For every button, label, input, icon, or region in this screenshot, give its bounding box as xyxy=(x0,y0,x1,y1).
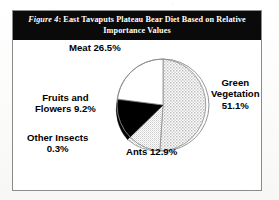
pie-chart xyxy=(116,58,210,152)
figure-caption-line-1: Figure 4: East Tavaputs Plateau Bear Die… xyxy=(28,15,246,26)
pie-label-green-vegetation-line-1: Green xyxy=(211,77,260,88)
pie-label-green-vegetation-line-2: Vegetation xyxy=(211,88,260,99)
figure-number-label: Figure 4 xyxy=(28,15,58,24)
pie-label-fruits-line-1: Fruits and xyxy=(35,92,96,103)
pie-slice-green-vegetation xyxy=(160,59,206,151)
pie-label-ants: Ants 12.9% xyxy=(126,146,177,157)
pie-label-other-insects: Other Insects 0.3% xyxy=(27,132,88,155)
pie-label-other-insects-line-1: Other Insects xyxy=(27,132,88,143)
figure-caption-text: : East Tavaputs Plateau Bear Diet Based … xyxy=(58,15,245,24)
pie-label-other-insects-line-2: 0.3% xyxy=(27,143,88,154)
pie-label-fruits-line-2: Flowers 9.2% xyxy=(35,103,96,114)
pie-label-meat: Meat 26.5% xyxy=(69,42,121,53)
pie-slice-meat xyxy=(117,59,163,105)
pie-label-fruits-and-flowers: Fruits and Flowers 9.2% xyxy=(35,92,96,115)
scanned-page: Figure 4: East Tavaputs Plateau Bear Die… xyxy=(0,0,279,200)
pie-label-green-vegetation: Green Vegetation 51.1% xyxy=(211,77,260,111)
figure-caption-bar: Figure 4: East Tavaputs Plateau Bear Die… xyxy=(13,11,261,40)
figure-container: Figure 4: East Tavaputs Plateau Bear Die… xyxy=(12,10,262,191)
pie-chart-svg xyxy=(116,58,210,152)
figure-caption-line-2: Importance Values xyxy=(103,26,170,37)
pie-label-green-vegetation-line-3: 51.1% xyxy=(211,100,260,111)
chart-plot-area: Meat 26.5% Green Vegetation 51.1% Fruits… xyxy=(13,40,261,191)
